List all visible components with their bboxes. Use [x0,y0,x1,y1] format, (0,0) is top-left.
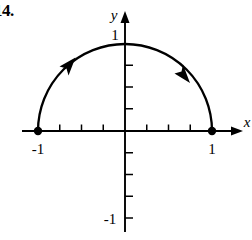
direction-arrow-left [60,58,76,76]
endpoint-dot-start [34,127,42,135]
coordinate-plot: y x -1 1 1 -1 [0,0,252,240]
y-tick-label-one: 1 [111,27,119,43]
x-axis-label: x [243,114,251,130]
endpoint-dot-end [208,127,216,135]
y-tick-label-neg-one: -1 [104,211,117,227]
direction-arrow-right [175,65,191,84]
x-tick-label-one: 1 [208,141,216,157]
x-tick-label-neg-one: -1 [32,141,45,157]
y-axis-arrowhead [121,11,130,23]
x-axis-arrowhead [231,127,243,136]
figure-panel: 14. [0,0,252,240]
y-axis-label: y [109,7,118,23]
